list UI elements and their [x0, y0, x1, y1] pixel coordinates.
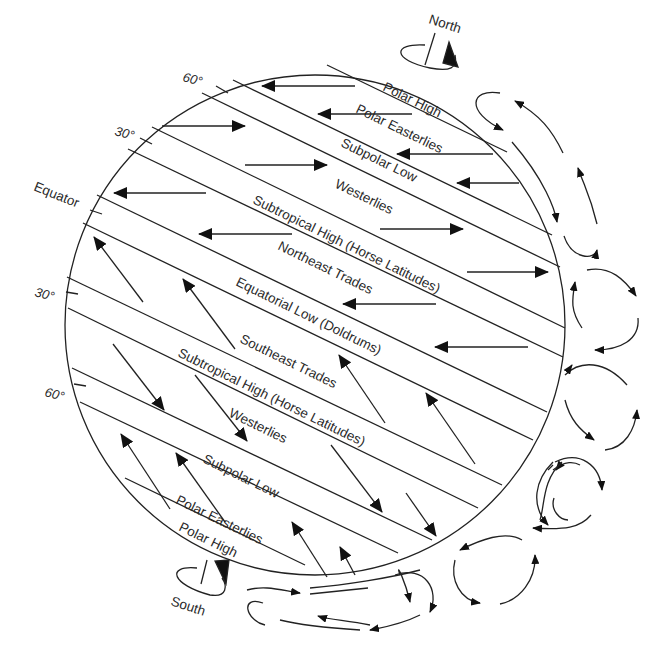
latitude-label-n60: 60°	[181, 69, 204, 89]
wind-belt-diagram: 60° 30° Equator 30° 60° Polar High Polar…	[0, 0, 671, 655]
belt-labels: Polar High Polar Easterlies Subpolar Low…	[174, 79, 446, 560]
label-north-subpolar-low: Subpolar Low	[339, 135, 420, 185]
north-pole-rotation-icon	[401, 33, 458, 69]
latitude-ticks	[66, 86, 228, 386]
latitude-label-s30: 30°	[33, 284, 56, 304]
latitude-label-n30: 30°	[113, 123, 136, 143]
south-pole-label: South	[169, 594, 207, 619]
wind-arrows	[94, 86, 548, 577]
latitude-label-s60: 60°	[43, 384, 66, 404]
north-pole-label: North	[427, 12, 463, 36]
south-pole-rotation-icon	[177, 560, 229, 595]
latitude-label-equator: Equator	[32, 179, 82, 211]
label-south-subpolar-low: Subpolar Low	[201, 451, 282, 501]
